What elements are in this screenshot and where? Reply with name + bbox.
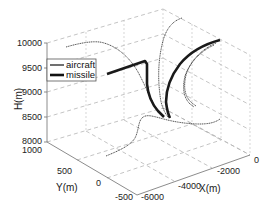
y-tick: 1000 — [22, 145, 42, 155]
legend: aircraft missile — [47, 59, 96, 81]
y-axis-label: Y(m) — [56, 182, 78, 193]
x-tick-labels: -6000 -4000 -2000 0 — [141, 155, 259, 202]
x-tick: 0 — [254, 155, 259, 165]
z-tick: 8500 — [22, 112, 42, 122]
aircraft-trajectory-3 — [185, 43, 216, 106]
z-axis-label: H(m) — [13, 88, 24, 110]
z-tick: 9000 — [22, 87, 42, 97]
trajectories — [66, 18, 220, 156]
3d-trajectory-chart: 10000 9500 9000 8500 8000 1000 500 0 -50… — [0, 0, 270, 212]
x-tick: -6000 — [141, 192, 164, 202]
y-tick: 0 — [96, 178, 101, 188]
y-tick-labels: 1000 500 0 -500 — [22, 145, 133, 202]
z-tick: 9500 — [22, 63, 42, 73]
missile-trajectory-1 — [107, 61, 164, 117]
y-tick: -500 — [115, 192, 133, 202]
y-tick: 500 — [57, 166, 72, 176]
aircraft-ground-trajectory — [106, 116, 220, 156]
x-axis-label: X(m) — [199, 183, 221, 194]
x-tick: -4000 — [178, 181, 201, 191]
legend-missile-label: missile — [66, 69, 95, 80]
x-tick: -2000 — [217, 166, 240, 176]
z-tick: 10000 — [17, 38, 42, 48]
missile-trajectory-2 — [166, 40, 220, 118]
